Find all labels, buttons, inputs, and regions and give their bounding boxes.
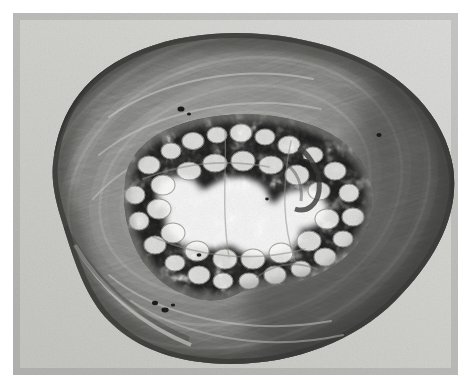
micrograph-frame (13, 13, 458, 375)
film-grain-overlay (13, 13, 458, 375)
page-canvas: Low-power cross-section of an ovoid enca… (0, 0, 469, 390)
histology-micrograph-image (13, 13, 458, 375)
